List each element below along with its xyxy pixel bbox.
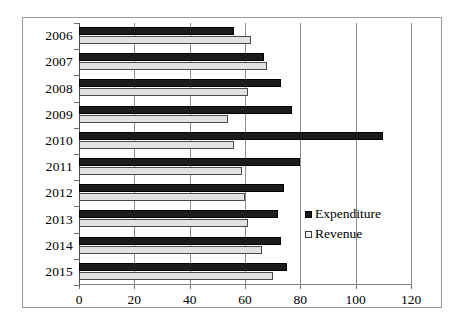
bar-revenue-2006 xyxy=(79,36,251,44)
bar-revenue-2015 xyxy=(79,272,273,280)
bar-expenditure-2006 xyxy=(79,27,234,35)
bar-revenue-2009 xyxy=(79,115,228,123)
bar-expenditure-2010 xyxy=(79,132,383,140)
x-axis-label-60: 60 xyxy=(225,292,265,307)
y-axis-tick xyxy=(74,154,79,155)
bar-group xyxy=(79,154,411,180)
legend-item-expenditure[interactable]: Expenditure xyxy=(305,204,381,224)
x-axis-label-0: 0 xyxy=(59,292,99,307)
x-axis-tick xyxy=(300,285,301,289)
y-axis-label-2007: 2007 xyxy=(21,55,73,69)
y-axis-tick xyxy=(74,102,79,103)
y-axis-tick xyxy=(74,233,79,234)
bar-expenditure-2012 xyxy=(79,184,284,192)
bar-expenditure-2009 xyxy=(79,106,292,114)
legend-item-revenue[interactable]: Revenue xyxy=(305,224,381,244)
bar-expenditure-2008 xyxy=(79,79,281,87)
y-axis-label-2015: 2015 xyxy=(21,265,73,279)
chart-legend: Expenditure Revenue xyxy=(305,204,381,244)
y-axis-label-2006: 2006 xyxy=(21,29,73,43)
y-axis-label-2008: 2008 xyxy=(21,82,73,96)
bar-expenditure-2013 xyxy=(79,210,278,218)
bar-revenue-2013 xyxy=(79,219,248,227)
legend-label-revenue: Revenue xyxy=(315,227,362,241)
bar-group xyxy=(79,180,411,206)
y-axis-label-2014: 2014 xyxy=(21,239,73,253)
x-axis-tick xyxy=(356,285,357,289)
bar-expenditure-2007 xyxy=(79,53,264,61)
y-axis-tick xyxy=(74,128,79,129)
y-axis-tick xyxy=(74,180,79,181)
x-axis-tick xyxy=(134,285,135,289)
y-axis-label-2012: 2012 xyxy=(21,186,73,200)
legend-label-expenditure: Expenditure xyxy=(315,207,381,221)
y-axis-tick xyxy=(74,75,79,76)
bar-group xyxy=(79,23,411,49)
chart-frame: 2006200720082009201020112012201320142015… xyxy=(22,17,442,308)
bar-revenue-2014 xyxy=(79,246,262,254)
x-axis-label-80: 80 xyxy=(280,292,320,307)
y-axis-label-2013: 2013 xyxy=(21,213,73,227)
bar-revenue-2012 xyxy=(79,193,245,201)
x-axis-label-120: 120 xyxy=(391,292,431,307)
x-axis-tick xyxy=(79,285,80,289)
bar-group xyxy=(79,49,411,75)
x-axis-label-40: 40 xyxy=(170,292,210,307)
bar-revenue-2011 xyxy=(79,167,242,175)
bar-group xyxy=(79,128,411,154)
bar-group xyxy=(79,259,411,285)
bar-revenue-2010 xyxy=(79,141,234,149)
y-axis-label-2009: 2009 xyxy=(21,108,73,122)
bar-revenue-2008 xyxy=(79,88,248,96)
y-axis-tick xyxy=(74,206,79,207)
y-axis-label-2011: 2011 xyxy=(21,160,73,174)
y-axis-tick xyxy=(74,49,79,50)
gridline xyxy=(411,23,412,285)
bar-expenditure-2015 xyxy=(79,263,287,271)
x-axis-label-20: 20 xyxy=(114,292,154,307)
legend-swatch-expenditure-icon xyxy=(305,211,312,218)
x-axis-tick xyxy=(190,285,191,289)
x-axis-tick xyxy=(245,285,246,289)
legend-swatch-revenue-icon xyxy=(305,231,312,238)
x-axis-label-100: 100 xyxy=(336,292,376,307)
y-axis-tick xyxy=(74,23,79,24)
bar-revenue-2007 xyxy=(79,62,267,70)
bar-group xyxy=(79,102,411,128)
x-axis-tick xyxy=(411,285,412,289)
bar-expenditure-2014 xyxy=(79,237,281,245)
y-axis-label-2010: 2010 xyxy=(21,134,73,148)
y-axis-tick xyxy=(74,259,79,260)
bar-expenditure-2011 xyxy=(79,158,300,166)
bar-group xyxy=(79,75,411,101)
